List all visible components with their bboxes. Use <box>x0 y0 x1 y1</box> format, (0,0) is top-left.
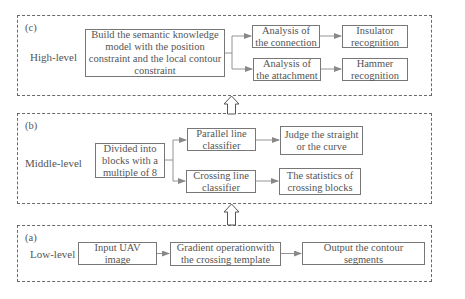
judge-straight-curve-box: Judge the straight or the curve <box>280 126 363 155</box>
crossing-classifier-box: Crossing line classifier <box>186 170 256 193</box>
middle-level-tag: (b) <box>25 120 37 131</box>
analysis-connection-text: Analysis of the connection <box>255 25 317 49</box>
gradient-operation-box: Gradient operationwith the crossing temp… <box>170 242 281 266</box>
input-uav-image-box: Input UAV image <box>78 242 157 265</box>
crossing-statistics-text: The statistics of crossing blocks <box>282 170 358 194</box>
divide-blocks-text: Divided into blocks with a multiple of 8 <box>98 143 162 179</box>
divide-blocks-box: Divided into blocks with a multiple of 8 <box>95 143 165 178</box>
up-arrow-icon-middle-to-high <box>224 96 239 114</box>
analysis-attachment-box: Analysis of the attachment <box>253 58 321 81</box>
judge-straight-curve-text: Judge the straight or the curve <box>283 129 360 153</box>
parallel-classifier-text: Parallel line classifier <box>190 128 253 152</box>
semantic-model-box: Build the semantic knowledge model with … <box>85 29 225 77</box>
parallel-classifier-box: Parallel line classifier <box>187 128 256 151</box>
low-level-label: Low-level <box>30 248 75 260</box>
output-contour-box: Output the contour segments <box>302 242 425 265</box>
crossing-classifier-text: Crossing line classifier <box>189 170 253 194</box>
up-arrow-icon-low-to-middle <box>224 204 239 225</box>
input-uav-image-text: Input UAV image <box>81 242 154 266</box>
hammer-recognition-text: Hammer recognition <box>345 58 405 82</box>
semantic-model-text: Build the semantic knowledge model with … <box>88 29 222 77</box>
insulator-recognition-text: Insulator recognition <box>345 25 405 49</box>
low-level-tag: (a) <box>25 232 37 243</box>
analysis-attachment-text: Analysis of the attachment <box>256 58 318 82</box>
gradient-operation-text: Gradient operationwith the crossing temp… <box>173 242 278 266</box>
high-level-tag: (c) <box>25 22 37 33</box>
hammer-recognition-box: Hammer recognition <box>342 58 408 81</box>
output-contour-text: Output the contour segments <box>305 242 422 266</box>
high-level-label: High-level <box>30 51 77 63</box>
crossing-statistics-box: The statistics of crossing blocks <box>279 168 361 195</box>
analysis-connection-box: Analysis of the connection <box>252 25 320 48</box>
middle-level-label: Middle-level <box>25 157 82 169</box>
insulator-recognition-box: Insulator recognition <box>342 25 408 48</box>
